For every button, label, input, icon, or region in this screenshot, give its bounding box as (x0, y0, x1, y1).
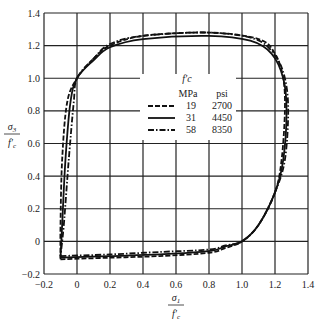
x-tick-labels: −0.200.20.40.60.81.01.21.4 (35, 279, 314, 290)
legend-psi-value: 8350 (212, 124, 232, 135)
series-curve (60, 32, 285, 259)
svg-text:f′c: f′c (8, 137, 17, 150)
x-tick-label: 0.4 (137, 279, 150, 290)
x-tick-label: −0.2 (35, 279, 53, 290)
legend-psi-value: 2700 (212, 100, 232, 111)
y-tick-label: −0.2 (22, 269, 40, 280)
grid-lines (44, 13, 308, 274)
legend-title: f'c (182, 73, 192, 84)
x-tick-label: 1.2 (269, 279, 282, 290)
x-tick-label: 1.0 (236, 279, 249, 290)
legend-mpa-value: 58 (186, 124, 196, 135)
svg-text:σ1: σ1 (172, 292, 180, 305)
y-tick-label: 0.8 (28, 105, 41, 116)
legend-psi-value: 4450 (212, 112, 232, 123)
x-tick-label: 0.6 (170, 279, 183, 290)
x-tick-label: 0 (75, 279, 80, 290)
series-curve (61, 36, 287, 258)
y-tick-label: 0.4 (28, 171, 41, 182)
legend-mpa-value: 31 (186, 112, 196, 123)
biaxial-strength-chart: −0.200.20.40.60.81.01.21.4 −0.200.20.40.… (0, 0, 323, 323)
y-tick-label: 1.2 (28, 40, 41, 51)
y-tick-label: 1.0 (28, 73, 41, 84)
x-axis-label: σ1 f′c (168, 292, 184, 321)
y-tick-label: 0.2 (28, 203, 41, 214)
legend-mpa-value: 19 (186, 100, 196, 111)
y-axis-label: σ3 f′c (4, 121, 20, 150)
series-curve (61, 32, 289, 256)
x-tick-label: 0.2 (104, 279, 117, 290)
y-tick-label: 1.4 (28, 8, 41, 19)
x-tick-label: 1.4 (302, 279, 315, 290)
svg-text:σ3: σ3 (8, 121, 17, 134)
svg-text:f′c: f′c (172, 308, 181, 321)
y-tick-labels: −0.200.20.40.60.81.01.21.4 (22, 8, 40, 280)
failure-envelopes (60, 32, 288, 259)
y-tick-label: 0.6 (28, 138, 41, 149)
legend-header-psi: psi (216, 88, 228, 99)
x-tick-label: 0.8 (203, 279, 216, 290)
y-tick-label: 0 (35, 236, 40, 247)
legend-header-mpa: MPa (179, 88, 198, 99)
